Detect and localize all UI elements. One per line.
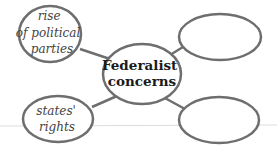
node-top-right[interactable]: [179, 14, 261, 60]
center-node: Federalist concerns: [102, 44, 182, 104]
node-top-left: rise of political parties: [16, 6, 84, 62]
node-bottom-right[interactable]: [179, 97, 259, 143]
center-line-2: concerns: [108, 73, 177, 89]
connector-bottom-left: [92, 96, 117, 107]
node-bottom-left-line-2: rights: [39, 120, 75, 134]
node-top-left-line-1: rise: [38, 9, 61, 23]
center-line-1: Federalist: [102, 57, 178, 73]
svg-text:Federalist concerns: Federalist concerns: [102, 57, 182, 89]
node-bottom-left-line-1: states': [36, 104, 76, 118]
node-bottom-left: states' rights: [23, 96, 93, 142]
node-top-left-line-3: parties: [31, 42, 74, 56]
web-diagram: rise of political parties Federalist con…: [0, 0, 277, 150]
node-top-left-line-2: of political: [16, 26, 81, 40]
